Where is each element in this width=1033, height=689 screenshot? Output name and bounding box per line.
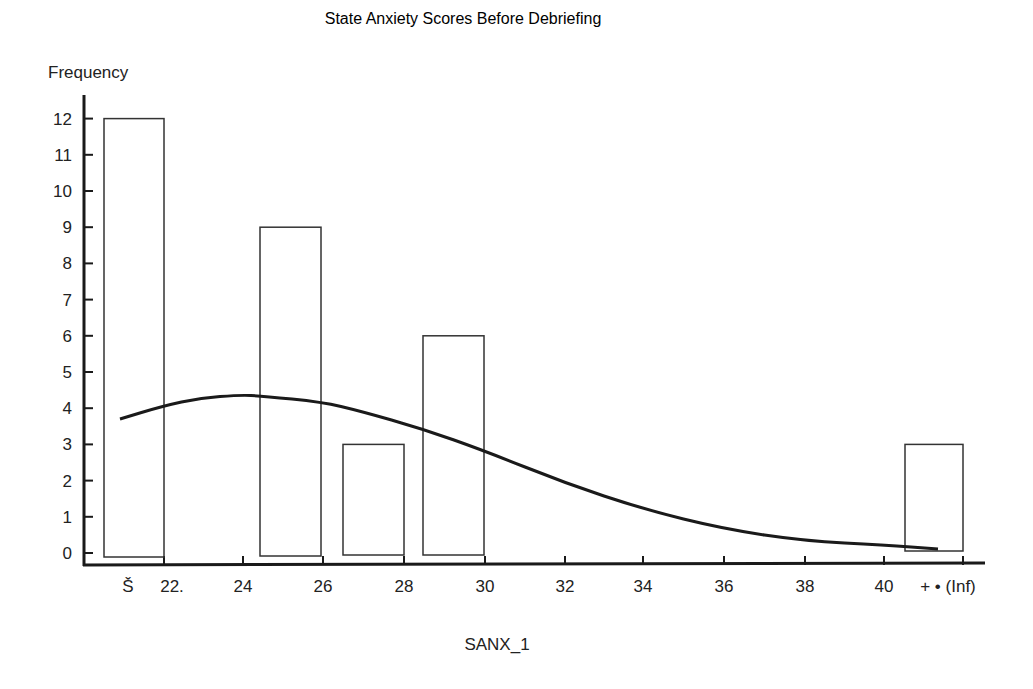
y-tick-label: 3 (63, 435, 72, 454)
y-tick-label: 7 (63, 291, 72, 310)
x-tick-label: + • (Inf) (920, 577, 976, 596)
x-tick-label: 30 (476, 577, 495, 596)
histogram-bars (104, 119, 963, 557)
y-tick-label: 10 (53, 182, 72, 201)
y-axis-label: Frequency (48, 63, 129, 82)
y-tick-label: 5 (63, 363, 72, 382)
y-tick-label: 9 (63, 218, 72, 237)
x-tick-label: 34 (634, 577, 653, 596)
chart-title: State Anxiety Scores Before Debriefing (325, 10, 602, 27)
x-axis-line (83, 563, 985, 565)
y-tick-label: 6 (63, 327, 72, 346)
normal-curve-line (120, 395, 938, 549)
y-tick-label: 12 (53, 110, 72, 129)
y-tick-label: 0 (63, 544, 72, 563)
histogram-bar (260, 227, 321, 556)
x-tick-label: 22. (160, 577, 184, 596)
histogram-bar (343, 444, 404, 555)
histogram-bar (905, 444, 963, 551)
y-tick-label: 2 (63, 472, 72, 491)
histogram-bar (423, 336, 484, 555)
y-axis-ticks: 0123456789101112 (53, 110, 93, 563)
x-tick-label: 38 (796, 577, 815, 596)
x-tick-label: 32 (556, 577, 575, 596)
x-tick-label: 36 (715, 577, 734, 596)
x-tick-label: 26 (314, 577, 333, 596)
y-tick-label: 8 (63, 254, 72, 273)
x-tick-label: 24 (234, 577, 253, 596)
histogram-chart: State Anxiety Scores Before Debriefing F… (0, 0, 1033, 689)
y-tick-label: 4 (63, 399, 72, 418)
x-tick-label: 28 (395, 577, 414, 596)
x-tick-label: 40 (875, 577, 894, 596)
y-tick-label: 1 (63, 508, 72, 527)
x-tick-label: Š (122, 577, 133, 596)
x-axis-label: SANX_1 (464, 635, 529, 654)
histogram-bar (104, 119, 164, 557)
y-tick-label: 11 (54, 146, 72, 165)
